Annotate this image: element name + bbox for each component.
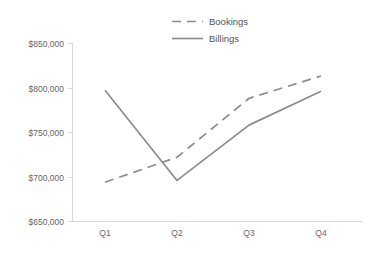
x-axis-label-q4: Q4: [315, 228, 327, 238]
y-axis-label-850000: $850,000: [29, 39, 65, 49]
legend-label-bookings: Bookings: [209, 16, 248, 27]
chart-canvas: $850,000 $800,000 $750,000 $700,000 $650…: [0, 0, 378, 253]
series-line-billings: [105, 90, 321, 180]
y-axis-label-700000: $700,000: [29, 173, 65, 183]
x-axis-label-q2: Q2: [171, 228, 183, 238]
x-axis-label-q3: Q3: [243, 228, 255, 238]
y-axis-label-750000: $750,000: [29, 128, 65, 138]
line-chart: $850,000 $800,000 $750,000 $700,000 $650…: [0, 0, 378, 253]
y-axis-label-800000: $800,000: [29, 84, 65, 94]
legend-label-billings: Billings: [209, 33, 239, 44]
x-axis-label-q1: Q1: [99, 228, 111, 238]
series-line-bookings: [105, 76, 321, 182]
chart-legend: Bookings Billings: [172, 16, 248, 44]
y-axis-label-650000: $650,000: [29, 217, 65, 227]
